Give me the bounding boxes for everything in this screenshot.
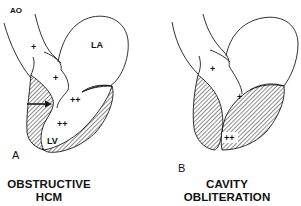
caption-b-line2: OBLITERATION (168, 191, 286, 204)
heart-diagram-b (150, 0, 301, 206)
aorta-left-wall (4, 23, 31, 78)
label-aorta: AO (10, 7, 22, 15)
panel-cavity-obliteration: + + ++ B CAVITY OBLITERATION (150, 0, 301, 206)
caption-b-line1: CAVITY (168, 178, 286, 191)
septum-hypertrophied (193, 75, 223, 150)
panel-obstructive-hcm: AO LA LV + + ++ ++ A OBSTRUCTIVE HCM (0, 0, 150, 206)
left-atrium-outline (58, 16, 128, 92)
pressure-mark: + (31, 43, 36, 52)
aorta-left-wall (172, 22, 198, 74)
pressure-mark: + (210, 65, 215, 74)
panel-letter-b: B (178, 163, 185, 174)
caption-a-line1: OBSTRUCTIVE (0, 178, 98, 191)
aorta-right-wall (35, 14, 61, 70)
label-left-atrium: LA (91, 41, 103, 50)
pressure-mark: + (237, 93, 242, 102)
label-left-ventricle: LV (47, 137, 58, 146)
pressure-mark: ++ (224, 134, 235, 143)
pressure-mark: + (53, 74, 58, 83)
caption-b: CAVITY OBLITERATION (168, 178, 286, 204)
caption-a: OBSTRUCTIVE HCM (0, 178, 98, 204)
pressure-mark: ++ (57, 120, 68, 129)
caption-a-line2: HCM (0, 191, 98, 204)
pressure-mark: ++ (70, 96, 81, 105)
panel-letter-a: A (12, 150, 19, 161)
